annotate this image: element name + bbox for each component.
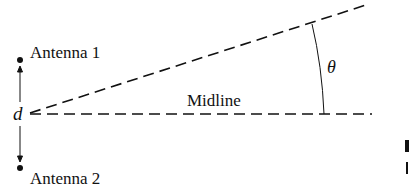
- antenna-2-dot: [17, 165, 23, 171]
- cropped-text-fragment: [405, 140, 409, 152]
- angle-arc: [312, 24, 324, 114]
- separation-label: d: [13, 104, 23, 123]
- angle-label: θ: [327, 58, 336, 76]
- midline-label: Midline: [187, 92, 241, 109]
- antenna-1-label: Antenna 1: [30, 44, 100, 61]
- cropped-text-fragment: [406, 162, 408, 174]
- antenna-2-label: Antenna 2: [30, 170, 100, 187]
- antenna-1-dot: [17, 57, 23, 63]
